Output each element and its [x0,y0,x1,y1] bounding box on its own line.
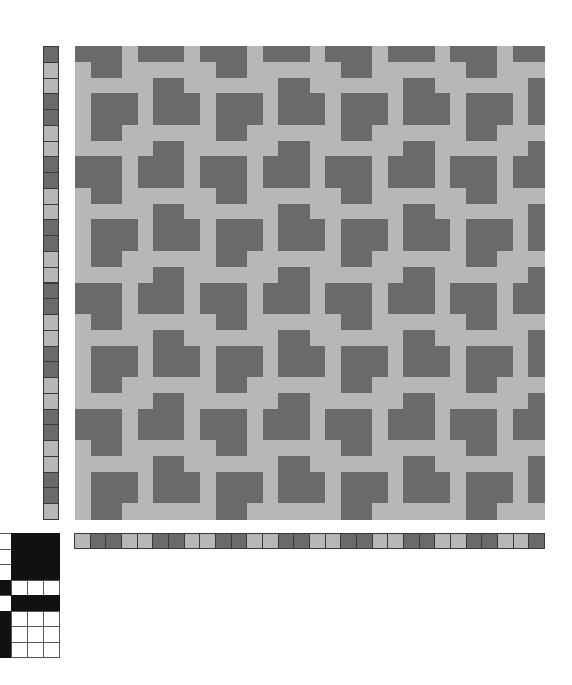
drawdown-cell [466,314,482,330]
drawdown-cell [138,251,154,267]
weft-stripe-cell [43,424,59,441]
drawdown-cell [278,93,294,109]
drawdown-cell [435,172,451,188]
drawdown-cell [325,456,341,472]
drawdown-cell [513,456,529,472]
drawdown-cell [388,125,404,141]
drawdown-cell [497,346,513,362]
warp-stripe-cell [481,533,498,549]
weft-stripe-cell [43,172,59,189]
drawdown-cell [528,330,544,346]
drawdown-cell [528,46,544,62]
drawdown-cell [247,283,263,299]
drawdown-cell [294,219,310,235]
drawdown-cell [419,93,435,109]
drawdown-cell [75,156,91,172]
drawdown-cell [91,487,107,503]
weft-stripe-cell [43,456,59,473]
drawdown-cell [278,330,294,346]
drawdown-cell [231,204,247,220]
drawdown-cell [278,125,294,141]
drawdown-cell [419,487,435,503]
drawdown-cell [356,330,372,346]
drawdown-cell [169,125,185,141]
drawdown-cell [419,314,435,330]
drawdown-cell [91,188,107,204]
drawdown-cell [466,204,482,220]
drawdown-cell [388,314,404,330]
warp-stripe-cell [246,533,263,549]
drawdown-cell [216,219,232,235]
drawdown-cell [341,330,357,346]
drawdown-cell [138,330,154,346]
weft-stripe-cell [43,503,59,520]
drawdown-cell [263,503,279,519]
drawdown-cell [263,456,279,472]
drawdown-cell [153,188,169,204]
weft-stripe-cell [43,361,59,378]
drawdown-cell [184,125,200,141]
warp-stripe-cell [450,533,467,549]
drawdown-cell [216,188,232,204]
drawdown-cell [435,298,451,314]
drawdown-cell [106,78,122,94]
drawdown-cell [263,172,279,188]
drawdown-cell [169,472,185,488]
drawdown-cell [403,204,419,220]
drawdown-cell [106,487,122,503]
drawdown-cell [106,283,122,299]
drawdown-cell [372,251,388,267]
drawdown-cell [450,188,466,204]
drawdown-cell [106,409,122,425]
drawdown-cell [216,456,232,472]
drawdown-cell [513,188,529,204]
drawdown-cell [122,424,138,440]
drawdown-cell [419,283,435,299]
drawdown-cell [200,472,216,488]
drawdown-cell [200,346,216,362]
drawdown-cell [247,409,263,425]
drawdown-cell [216,251,232,267]
tieup-grid [0,533,59,657]
drawdown-cell [216,46,232,62]
drawdown-cell [138,62,154,78]
drawdown-cell [388,78,404,94]
drawdown-cell [481,251,497,267]
drawdown-cell [341,361,357,377]
drawdown-cell [169,314,185,330]
drawdown-cell [513,204,529,220]
drawdown-cell [231,472,247,488]
drawdown-cell [263,109,279,125]
drawdown-cell [231,440,247,456]
drawdown-cell [356,456,372,472]
drawdown-cell [388,204,404,220]
tieup-cell [11,580,28,597]
drawdown-cell [450,219,466,235]
drawdown-cell [388,440,404,456]
drawdown-cell [403,141,419,157]
drawdown-cell [247,487,263,503]
drawdown-cell [497,283,513,299]
drawdown-cell [372,298,388,314]
drawdown-cell [122,472,138,488]
drawdown-cell [169,409,185,425]
drawdown-cell [153,235,169,251]
drawdown-cell [247,456,263,472]
drawdown-cell [450,141,466,157]
drawdown-cell [216,109,232,125]
drawdown-cell [450,62,466,78]
drawdown-cell [466,298,482,314]
drawdown-cell [184,503,200,519]
drawdown-cell [75,141,91,157]
warp-stripe-cell [513,533,530,549]
drawdown-cell [481,409,497,425]
drawdown-cell [91,219,107,235]
drawdown-cell [481,204,497,220]
drawdown-cell [372,219,388,235]
drawdown-cell [466,487,482,503]
drawdown-cell [435,440,451,456]
drawdown-cell [419,172,435,188]
drawdown-cell [263,251,279,267]
drawdown-cell [75,472,91,488]
drawdown-cell [184,156,200,172]
